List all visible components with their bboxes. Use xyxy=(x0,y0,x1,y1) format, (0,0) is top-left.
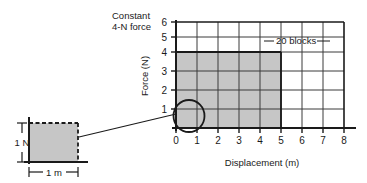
y-tick-label-3: 3 xyxy=(161,66,167,77)
blocks-count-label: 20 blocks xyxy=(276,35,316,46)
x-tick-label-8: 8 xyxy=(341,135,347,146)
x-tick-label-0: 0 xyxy=(173,135,179,146)
y-tick-label-6: 6 xyxy=(161,17,167,28)
x-tick-label-3: 3 xyxy=(236,135,242,146)
x-tick-label-4: 4 xyxy=(257,135,263,146)
inset-vertical-dimension-label: 1 N xyxy=(15,137,30,148)
y-tick-labels: 6 5 4 3 2 1 xyxy=(161,17,167,115)
x-tick-label-1: 1 xyxy=(194,135,200,146)
unit-block-inset: 1 N 1 m xyxy=(15,117,88,178)
inset-block-fill xyxy=(29,123,78,162)
x-axis-title: Displacement (m) xyxy=(225,157,299,168)
y-tick-label-1: 1 xyxy=(161,104,167,115)
constant-force-note-line2: 4-N force xyxy=(112,21,151,32)
figure-canvas: 6 5 4 3 2 1 0 1 2 3 4 5 6 7 xyxy=(0,0,367,183)
inset-connector-line xyxy=(79,114,176,137)
y-axis-title: Force (N) xyxy=(139,56,150,96)
force-displacement-figure: 6 5 4 3 2 1 0 1 2 3 4 5 6 7 xyxy=(0,0,367,183)
y-tick-label-5: 5 xyxy=(161,32,167,43)
x-tick-labels: 0 1 2 3 4 5 6 7 8 xyxy=(173,135,347,146)
y-tick-label-4: 4 xyxy=(161,47,167,58)
y-tick-label-2: 2 xyxy=(161,85,167,96)
x-tick-label-6: 6 xyxy=(299,135,305,146)
inset-horizontal-dimension-label: 1 m xyxy=(46,167,62,178)
constant-force-note-line1: Constant xyxy=(112,10,150,21)
x-tick-label-7: 7 xyxy=(320,135,326,146)
x-tick-label-2: 2 xyxy=(215,135,221,146)
x-tick-label-5: 5 xyxy=(278,135,284,146)
